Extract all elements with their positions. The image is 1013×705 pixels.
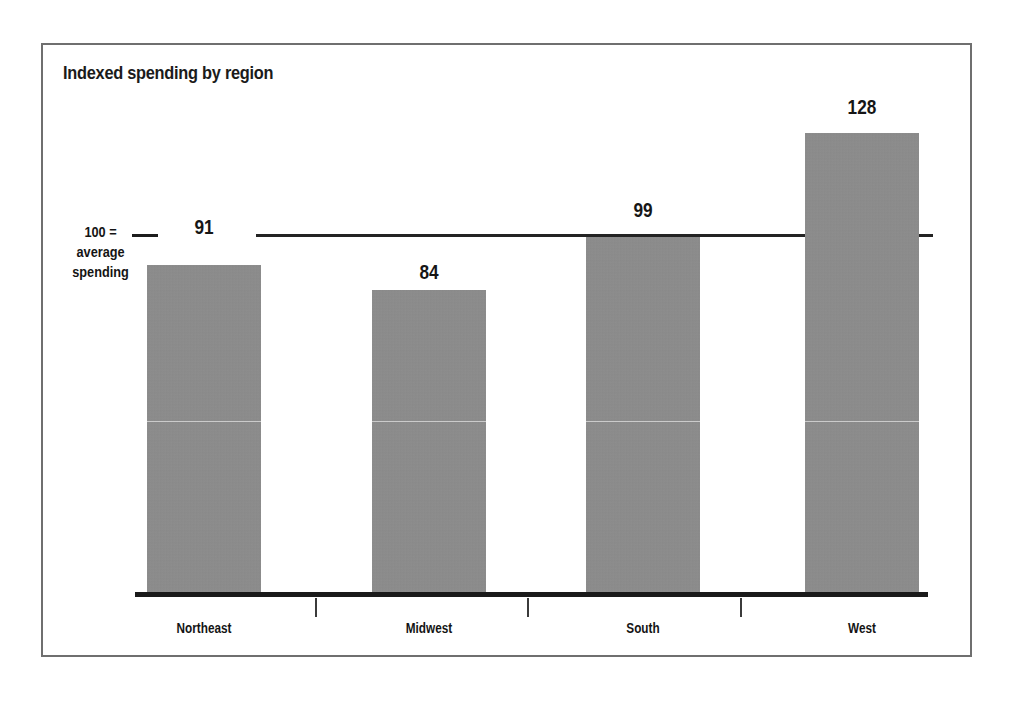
x-axis-label-northeast: Northeast bbox=[150, 620, 258, 636]
chart-title: Indexed spending by region bbox=[63, 62, 273, 84]
reference-line-dash bbox=[132, 234, 158, 237]
x-axis-tick-2 bbox=[527, 598, 529, 617]
reference-annotation-line-1: 100 = bbox=[69, 222, 132, 242]
x-axis-label-south: South bbox=[589, 620, 697, 636]
reference-annotation-line-2: average bbox=[69, 242, 132, 262]
reference-line-annotation: 100 = average spending bbox=[69, 222, 132, 282]
reference-line-100 bbox=[256, 234, 806, 237]
x-axis-tick-3 bbox=[740, 598, 742, 617]
bar-value-south: 99 bbox=[596, 198, 689, 222]
bar-west[interactable] bbox=[805, 133, 919, 595]
x-axis-label-west: West bbox=[808, 620, 916, 636]
x-axis-tick-1 bbox=[315, 598, 317, 617]
x-axis-label-midwest: Midwest bbox=[375, 620, 483, 636]
bar-value-west: 128 bbox=[815, 95, 908, 119]
reference-line-right-tick bbox=[918, 234, 933, 237]
x-axis-line bbox=[135, 592, 928, 597]
bar-south[interactable] bbox=[586, 237, 700, 595]
bar-value-northeast: 91 bbox=[157, 215, 250, 239]
bar-value-midwest: 84 bbox=[382, 260, 475, 284]
reference-annotation-line-3: spending bbox=[69, 262, 132, 282]
bar-midwest[interactable] bbox=[372, 290, 486, 595]
chart-container: Indexed spending by region 100 = average… bbox=[0, 0, 1013, 705]
bar-northeast[interactable] bbox=[147, 265, 261, 595]
